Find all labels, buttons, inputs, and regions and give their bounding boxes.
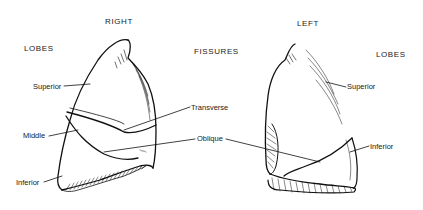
label-right-superior-lobe: Superior	[33, 83, 61, 91]
heading-left-lung: LEFT	[297, 20, 319, 28]
heading-lobes-left-column: LOBES	[376, 51, 406, 59]
label-left-inferior-lobe: Inferior	[370, 143, 393, 151]
leader-oblique-right	[104, 139, 195, 152]
leader-right-middle	[49, 130, 78, 136]
leader-left-inferior	[350, 146, 369, 152]
label-right-inferior-lobe: Inferior	[16, 179, 39, 187]
leader-right-superior	[64, 84, 90, 86]
leader-oblique-left	[226, 139, 320, 162]
heading-lobes-right-column: LOBES	[24, 45, 54, 53]
leader-transverse	[124, 107, 190, 130]
label-transverse-fissure: Transverse	[191, 104, 228, 112]
right-lung-drawing	[58, 40, 156, 192]
label-left-superior-lobe: Superior	[347, 83, 375, 91]
leader-lines	[44, 82, 369, 182]
heading-right-lung: RIGHT	[105, 18, 133, 26]
label-right-middle-lobe: Middle	[23, 132, 45, 140]
leader-right-inferior	[44, 176, 62, 182]
label-oblique-fissure: Oblique	[197, 135, 223, 143]
left-lung-drawing	[265, 44, 357, 193]
heading-fissures: FISSURES	[194, 48, 239, 56]
